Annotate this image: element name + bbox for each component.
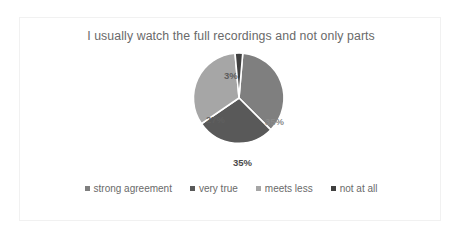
legend-swatch-icon [331, 186, 336, 191]
chart-title: I usually watch the full recordings and … [20, 29, 442, 43]
legend-swatch-icon [256, 186, 261, 191]
legend-label: strong agreement [94, 183, 172, 194]
pie-graphic [189, 48, 289, 148]
legend-label: meets less [265, 183, 313, 194]
chart-legend: strong agreement very true meets less no… [20, 183, 442, 194]
legend-item-meets-less[interactable]: meets less [256, 183, 313, 194]
slice-label-very-true: 35% [233, 157, 252, 168]
legend-swatch-icon [85, 186, 90, 191]
pie-chart-card: I usually watch the full recordings and … [19, 17, 441, 221]
legend-label: very true [199, 183, 238, 194]
legend-item-very-true[interactable]: very true [190, 183, 238, 194]
plot-area: 3% 27% 35% 35% [20, 48, 442, 178]
pie-slices [193, 53, 284, 143]
legend-swatch-icon [190, 186, 195, 191]
legend-item-strong-agreement[interactable]: strong agreement [85, 183, 172, 194]
legend-item-not-at-all[interactable]: not at all [331, 183, 378, 194]
legend-label: not at all [340, 183, 378, 194]
